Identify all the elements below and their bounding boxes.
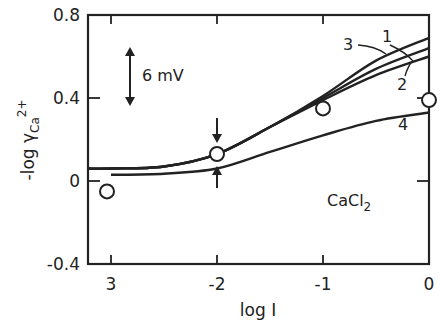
curve-3 [88,48,429,169]
arrow-down-icon [212,134,222,143]
y-tick-label: 0.4 [53,88,80,108]
y-axis-title: -log γCa2+ [15,100,42,181]
y-tick-label: 0 [69,171,80,191]
curve-label-1: 1 [382,27,392,46]
data-point [100,184,114,198]
data-point [422,93,436,107]
curve-label-4: 4 [398,115,408,134]
data-point [316,101,330,115]
salt-label: CaCl2 [327,191,371,214]
svg-text:-log γCa2+: -log γCa2+ [15,100,42,181]
y-tick-label: 0.8 [53,5,80,25]
activity-coefficient-chart: 3-2-100.80.40-0.4 log I -log γCa2+ 6 mV … [0,0,440,325]
curve-label-2: 2 [397,75,407,94]
x-tick-label: -1 [315,274,332,294]
data-points [100,93,436,198]
scale-bar-label: 6 mV [142,66,184,85]
arrow-down-icon [125,97,135,106]
curves [88,38,429,175]
scale-bar-6mv: 6 mV [125,47,184,106]
curve-1 [88,38,429,169]
data-point [210,147,224,161]
x-axis-title: log I [240,300,276,320]
x-tick-label: 0 [424,274,435,294]
curve-4 [111,113,429,175]
arrow-up-icon [125,47,135,56]
curve-label-3: 3 [343,35,353,54]
curve-2 [88,57,429,169]
x-tick-label: 3 [106,274,117,294]
y-tick-label: -0.4 [47,254,80,274]
plot-frame [88,15,429,264]
axis-ticks [88,15,429,264]
x-tick-label: -2 [209,274,226,294]
